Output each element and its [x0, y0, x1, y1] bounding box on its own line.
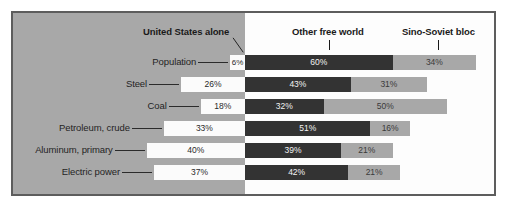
category-leader-coal [169, 106, 199, 107]
bar-segment-other-coal-value: 32% [245, 99, 324, 114]
bar-row-population[interactable]: Population6%60%34% [0, 55, 506, 70]
bar-segment-other-steel-value: 43% [245, 77, 351, 92]
bar-segment-other-electric-power-value: 42% [245, 165, 348, 180]
bar-segment-sino-petroleum-crude-value: 16% [370, 121, 409, 136]
category-label-steel: Steel [126, 78, 147, 89]
bar-row-petroleum-crude[interactable]: Petroleum, crude33%51%16% [0, 121, 506, 136]
frame-bottom-rule [11, 194, 496, 196]
bar-row-coal[interactable]: Coal18%32%50% [0, 99, 506, 114]
leader-line-sino-soviet-bloc [438, 40, 439, 50]
legend-label-other-free-world: Other free world [292, 26, 364, 37]
category-leader-aluminum-primary [115, 150, 145, 151]
bar-segment-other-coal[interactable]: 32% [245, 99, 324, 114]
stacked-bar-chart: United States alone Other free world Sin… [0, 0, 506, 212]
category-label-electric-power: Electric power [62, 166, 120, 177]
bar-segment-us-aluminum-primary[interactable]: 40% [147, 143, 245, 158]
category-label-petroleum-crude: Petroleum, crude [59, 122, 130, 133]
bar-segment-us-steel-value: 26% [181, 77, 245, 92]
frame-top-rule [11, 11, 496, 13]
bar-segment-other-steel[interactable]: 43% [245, 77, 351, 92]
legend-label-united-states-alone: United States alone [143, 26, 229, 37]
bar-segment-sino-steel[interactable]: 31% [351, 77, 427, 92]
bar-segment-us-coal[interactable]: 18% [201, 99, 245, 114]
bar-segment-us-electric-power[interactable]: 37% [154, 165, 245, 180]
category-leader-steel [149, 84, 179, 85]
bar-segment-us-petroleum-crude[interactable]: 33% [164, 121, 245, 136]
legend-label-sino-soviet-bloc: Sino-Soviet bloc [402, 26, 475, 37]
category-leader-petroleum-crude [132, 128, 162, 129]
bar-segment-other-population-value: 60% [245, 55, 393, 70]
bar-segment-us-coal-value: 18% [201, 99, 245, 114]
bar-segment-other-population[interactable]: 60% [245, 55, 393, 70]
bar-segment-sino-petroleum-crude[interactable]: 16% [370, 121, 409, 136]
category-label-population: Population [152, 56, 196, 67]
bar-segment-sino-electric-power[interactable]: 21% [348, 165, 400, 180]
bar-segment-sino-population-value: 34% [393, 55, 477, 70]
bar-segment-other-petroleum-crude[interactable]: 51% [245, 121, 370, 136]
bar-row-electric-power[interactable]: Electric power37%42%21% [0, 165, 506, 180]
bar-segment-sino-steel-value: 31% [351, 77, 427, 92]
bar-segment-other-petroleum-crude-value: 51% [245, 121, 370, 136]
category-leader-electric-power [122, 172, 152, 173]
bar-row-steel[interactable]: Steel26%43%31% [0, 77, 506, 92]
bar-segment-sino-aluminum-primary-value: 21% [341, 143, 393, 158]
leader-line-other-free-world [329, 40, 330, 50]
bar-segment-sino-electric-power-value: 21% [348, 165, 400, 180]
category-leader-population [198, 62, 228, 63]
bar-segment-us-aluminum-primary-value: 40% [147, 143, 245, 158]
bar-segment-sino-aluminum-primary[interactable]: 21% [341, 143, 393, 158]
leader-line-united-states-alone [232, 37, 246, 54]
bar-segment-sino-coal-value: 50% [324, 99, 447, 114]
bar-segment-us-population-value: 6% [230, 55, 245, 70]
bar-segment-sino-population[interactable]: 34% [393, 55, 477, 70]
bar-segment-other-aluminum-primary[interactable]: 39% [245, 143, 341, 158]
category-label-aluminum-primary: Aluminum, primary [35, 144, 112, 155]
bar-segment-other-aluminum-primary-value: 39% [245, 143, 341, 158]
bar-segment-us-electric-power-value: 37% [154, 165, 245, 180]
bar-segment-us-petroleum-crude-value: 33% [164, 121, 245, 136]
category-label-coal: Coal [148, 100, 167, 111]
bar-segment-us-population[interactable]: 6% [230, 55, 245, 70]
bar-segment-other-electric-power[interactable]: 42% [245, 165, 348, 180]
bar-row-aluminum-primary[interactable]: Aluminum, primary40%39%21% [0, 143, 506, 158]
bar-segment-us-steel[interactable]: 26% [181, 77, 245, 92]
bar-segment-sino-coal[interactable]: 50% [324, 99, 447, 114]
